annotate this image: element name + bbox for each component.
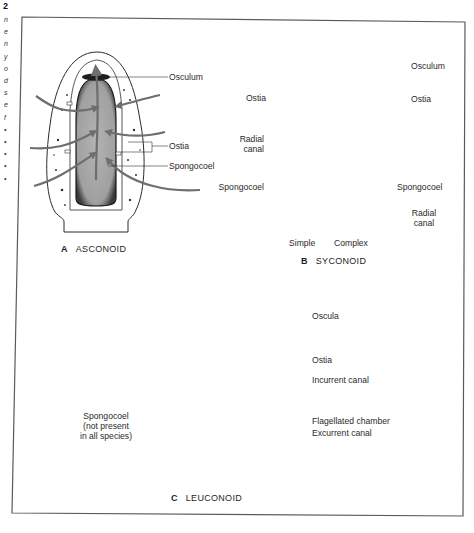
label-complex: Complex <box>334 238 368 248</box>
caption-asconoid: AASCONOID <box>61 244 126 254</box>
label-radial-canal-b-right: Radial canal <box>409 208 439 228</box>
label-spongocoel-b-right: Spongocoel <box>397 182 442 192</box>
label-osculum-b: Osculum <box>411 61 445 71</box>
label-flagellated-chamber: Flagellated chamber <box>312 416 390 426</box>
label-ostia-c: Ostia <box>312 355 332 365</box>
label-radial-canal-b-left: Radial canal <box>236 134 264 154</box>
caption-leuconoid: CLEUCONOID <box>171 493 242 503</box>
label-ostia-b-left: Ostia <box>240 93 266 103</box>
label-spongocoel-b-left: Spongocoel <box>210 182 264 192</box>
caption-syconoid: BSYCONOID <box>301 256 366 266</box>
label-oscula: Oscula <box>312 311 339 321</box>
label-excurrent-canal: Excurrent canal <box>312 428 372 438</box>
label-incurrent-canal: Incurrent canal <box>312 375 369 385</box>
sponge-body-types-figure <box>0 0 474 533</box>
label-spongocoel-a: Spongocoel <box>169 161 214 171</box>
label-simple: Simple <box>289 238 315 248</box>
label-ostia-b-right: Ostia <box>411 94 431 104</box>
label-ostia-a: Ostia <box>169 141 189 151</box>
label-spongocoel-c: Spongocoel (not present in all species) <box>74 411 138 441</box>
label-osculum-a: Osculum <box>169 72 203 82</box>
